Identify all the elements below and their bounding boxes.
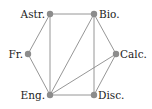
- node-label-calc: Calc.: [120, 48, 147, 60]
- edge-layer: [28, 14, 116, 95]
- node-bio: [91, 11, 97, 17]
- node-disc: [91, 92, 97, 98]
- node-label-bio: Bio.: [99, 8, 120, 20]
- node-astr: [47, 11, 53, 17]
- edge-bio-calc: [94, 14, 116, 54]
- node-label-disc: Disc.: [98, 89, 124, 101]
- node-fr: [25, 51, 31, 57]
- graph-diagram: Astr.Bio.Fr.Calc.Eng.Disc.: [0, 0, 152, 109]
- node-label-fr: Fr.: [9, 48, 24, 60]
- edge-bio-eng: [50, 14, 94, 95]
- node-eng: [47, 92, 53, 98]
- node-label-eng: Eng.: [21, 89, 46, 101]
- edge-astr-fr: [28, 14, 50, 54]
- node-label-astr: Astr.: [20, 8, 45, 20]
- node-calc: [113, 51, 119, 57]
